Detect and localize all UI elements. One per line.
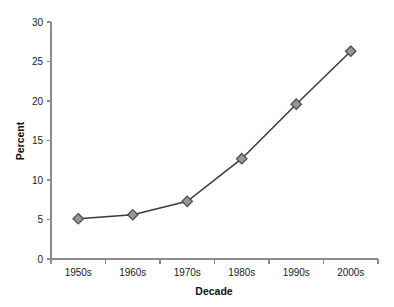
data-point-marker <box>128 210 138 220</box>
series-markers-percent <box>73 46 356 224</box>
y-tick-label: 5 <box>37 214 43 225</box>
chart-container: 051015202530 1950s1960s1970s1980s1990s20… <box>0 0 394 307</box>
x-tick-label: 2000s <box>337 267 364 278</box>
y-axis-ticks <box>47 22 51 259</box>
series-line-percent <box>78 51 351 218</box>
x-tick-label: 1950s <box>65 267 92 278</box>
data-series-group <box>73 46 356 224</box>
y-axis-group: 051015202530 <box>32 17 51 265</box>
x-axis-title: Decade <box>195 285 233 297</box>
y-axis-title: Percent <box>14 121 26 160</box>
y-tick-label: 30 <box>32 17 44 28</box>
y-tick-label: 20 <box>32 96 44 107</box>
data-point-marker <box>73 214 83 224</box>
x-tick-label: 1990s <box>283 267 310 278</box>
y-tick-label: 0 <box>37 254 43 265</box>
x-tick-label: 1980s <box>228 267 255 278</box>
x-tick-label: 1970s <box>174 267 201 278</box>
y-axis-tick-labels: 051015202530 <box>32 17 44 265</box>
x-axis-group: 1950s1960s1970s1980s1990s2000s <box>51 259 378 278</box>
y-tick-label: 15 <box>32 135 44 146</box>
line-chart: 051015202530 1950s1960s1970s1980s1990s20… <box>0 0 394 307</box>
y-tick-label: 10 <box>32 175 44 186</box>
x-tick-label: 1960s <box>119 267 146 278</box>
y-tick-label: 25 <box>32 56 44 67</box>
x-axis-ticks <box>51 259 378 264</box>
x-axis-tick-labels: 1950s1960s1970s1980s1990s2000s <box>65 267 365 278</box>
